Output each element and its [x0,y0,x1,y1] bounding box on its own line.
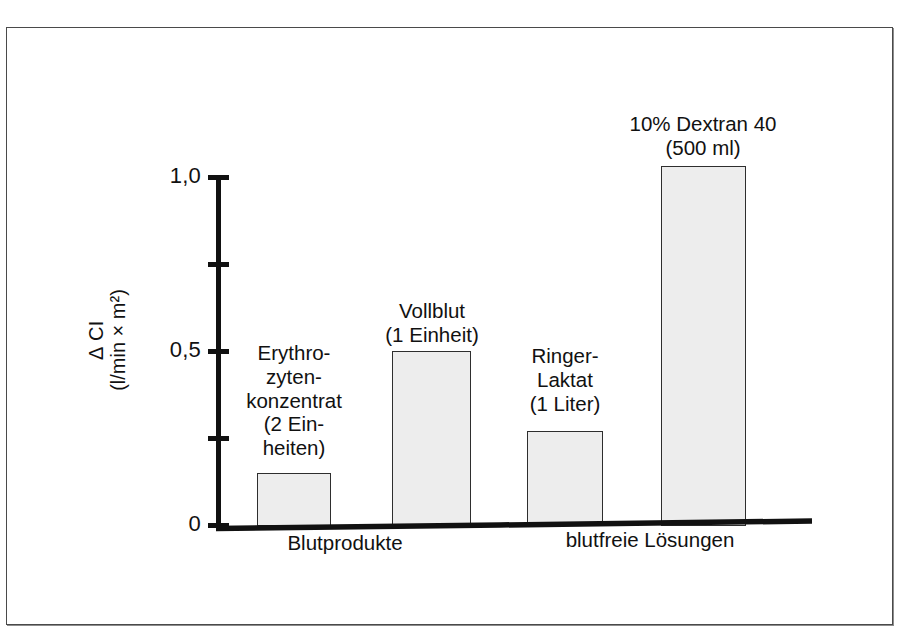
y-axis-title-line-1: Δ CI [85,240,107,440]
bar-chart-plot: 1,0 0,5 0 Δ CI (l/min × m²) Erythro- zyt… [0,0,900,641]
bar-caption-vollblut: Vollblut (1 Einheit) [362,299,502,347]
bar-caption-ringer-laktat: Ringer- Laktat (1 Liter) [495,344,635,415]
y-axis-label-1-0: 1,0 [135,163,201,189]
figure-canvas: 1,0 0,5 0 Δ CI (l/min × m²) Erythro- zyt… [0,0,900,641]
bar-caption-erythrozytenkonzentrat: Erythro- zyten- konzentrat (2 Ein- heite… [214,341,374,460]
y-axis-tick-0-75 [208,262,229,267]
bar-dextran-40 [661,166,746,526]
y-axis-tick-1-0 [208,175,229,180]
group-caption-blutprodukte: Blutprodukte [235,531,455,555]
y-axis-title: Δ CI (l/min × m²) [85,240,130,440]
bar-caption-dextran-40: 10% Dextran 40 (500 ml) [603,112,803,160]
y-axis-label-0-5: 0,5 [135,337,201,363]
y-axis-title-line-2: (l/min × m²) [107,240,129,440]
group-caption-blutfreie-loesungen: blutfreie Lösungen [525,528,775,552]
